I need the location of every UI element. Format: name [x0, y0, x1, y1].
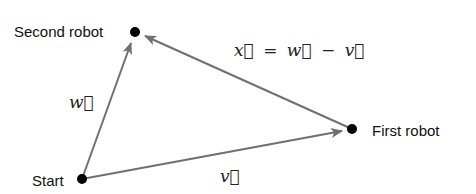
label-vector-v: v⃗: [220, 166, 240, 186]
point-first-robot: [347, 124, 357, 134]
label-vector-w: w⃗: [69, 92, 94, 112]
vector-diagram: Second robot First robot Start w⃗ v⃗ x⃗ …: [0, 0, 476, 194]
label-second-robot: Second robot: [14, 23, 104, 40]
point-start: [77, 174, 87, 184]
label-start: Start: [32, 172, 65, 189]
label-first-robot: First robot: [372, 122, 440, 139]
equation-label: x⃗ = w⃗ − v⃗: [234, 40, 364, 60]
point-second-robot: [130, 27, 140, 37]
vector-v-arrow: [82, 131, 342, 179]
